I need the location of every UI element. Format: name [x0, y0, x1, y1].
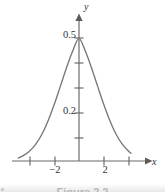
y-tick-label-05: 0.5	[52, 30, 76, 41]
figure-caption: Figure 2.2	[0, 187, 165, 192]
y-tick-label-02: 0.2	[52, 106, 76, 117]
x-axis-label: x	[152, 157, 156, 167]
figure-caption-strip: Figure 2.2	[0, 184, 165, 192]
x-tick-label-neg2: −2	[44, 165, 66, 176]
x-tick-label-pos2: 2	[94, 165, 116, 176]
plot-area	[0, 0, 165, 192]
y-axis-arrow-icon	[75, 14, 82, 22]
figure-bell-curve: y x 0.5 0.2 −2 2 Figure 2.2	[0, 0, 165, 192]
bell-curve-line	[18, 38, 131, 158]
y-axis-label: y	[84, 2, 88, 12]
